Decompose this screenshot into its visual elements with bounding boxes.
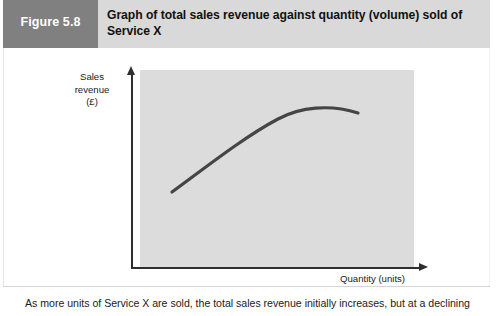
revenue-curve-svg (0, 0, 499, 316)
revenue-curve-path (172, 108, 358, 192)
figure-panel: Figure 5.8 Graph of total sales revenue … (0, 0, 499, 316)
caption-divider (3, 286, 490, 287)
figure-caption: As more units of Service X are sold, the… (25, 296, 480, 310)
chart-area: Sales revenue (£) Quantity (units) (0, 0, 499, 316)
